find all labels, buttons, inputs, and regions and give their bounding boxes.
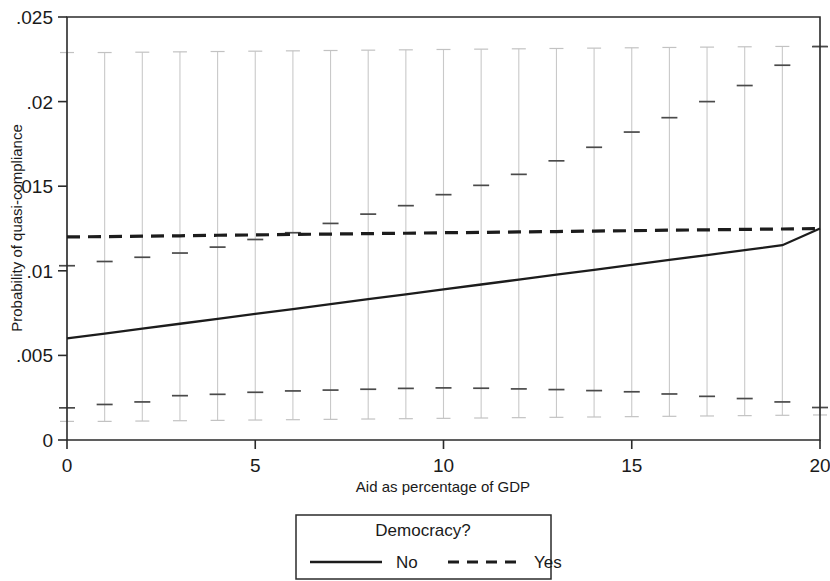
y-tick-label: .025 bbox=[16, 7, 53, 28]
x-tick-label: 20 bbox=[809, 455, 830, 476]
error-bar bbox=[774, 46, 790, 415]
y-tick-label: .005 bbox=[16, 345, 53, 366]
x-tick-label: 15 bbox=[621, 455, 642, 476]
y-axis-title: Probability of quasi-compliance bbox=[8, 124, 25, 332]
error-bar bbox=[661, 47, 677, 416]
chart-figure: 0.005.01.015.02.025 05101520 Probability… bbox=[0, 0, 830, 581]
legend-title: Democracy? bbox=[375, 521, 470, 540]
legend-label-no: No bbox=[396, 553, 418, 572]
x-axis-title: Aid as percentage of GDP bbox=[356, 478, 530, 495]
x-axis: 05101520 bbox=[62, 440, 830, 476]
x-tick-label: 5 bbox=[250, 455, 261, 476]
probability-quasi-compliance-chart: 0.005.01.015.02.025 05101520 Probability… bbox=[0, 0, 830, 581]
y-tick-label: 0 bbox=[42, 430, 53, 451]
legend-label-yes: Yes bbox=[534, 553, 562, 572]
x-tick-label: 0 bbox=[62, 455, 73, 476]
error-bar bbox=[699, 47, 715, 416]
error-bars-group bbox=[59, 46, 828, 421]
y-tick-label: .02 bbox=[27, 92, 53, 113]
x-tick-label: 10 bbox=[433, 455, 454, 476]
y-tick-label: .01 bbox=[27, 261, 53, 282]
error-bar bbox=[737, 47, 753, 416]
legend: Democracy? No Yes bbox=[296, 515, 562, 579]
